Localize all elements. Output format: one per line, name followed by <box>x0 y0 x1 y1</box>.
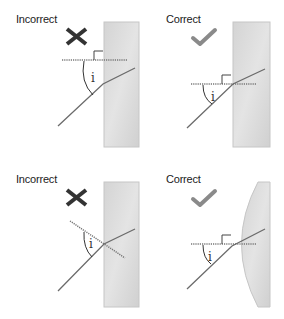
glass-block <box>104 22 139 147</box>
angle-label: i <box>208 250 212 264</box>
panel-top-right: i <box>187 22 270 147</box>
check-icon <box>193 191 215 205</box>
right-angle-icon <box>94 51 103 60</box>
right-angle-icon <box>222 235 231 244</box>
panel-label-correct: Correct <box>166 173 201 185</box>
panel-label-incorrect: Incorrect <box>16 13 57 25</box>
panel-top-left: i <box>58 22 139 147</box>
angle-label: i <box>89 237 93 251</box>
panel-bottom-left: i <box>58 182 139 307</box>
angle-label: i <box>91 71 95 85</box>
glass-block <box>104 182 139 307</box>
panel-label-correct: Correct <box>166 13 201 25</box>
check-icon <box>193 30 215 44</box>
right-angle-icon <box>222 75 231 84</box>
refraction-diagram: i i i i <box>0 0 284 319</box>
angle-label: i <box>211 90 215 104</box>
cross-icon <box>67 190 86 205</box>
cross-icon <box>67 29 86 44</box>
panel-bottom-right: i <box>187 182 270 307</box>
panel-label-incorrect: Incorrect <box>16 173 57 185</box>
